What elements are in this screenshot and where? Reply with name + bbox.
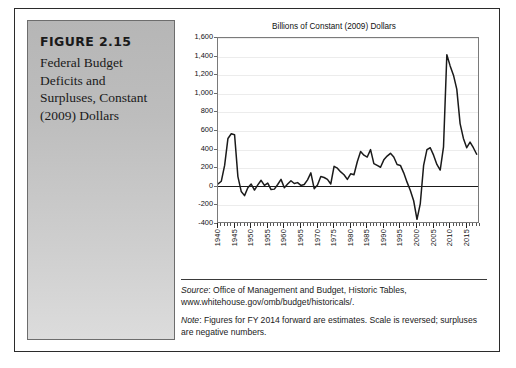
x-axis-major-tick bbox=[350, 223, 351, 228]
x-axis-minor-tick bbox=[443, 223, 444, 226]
x-axis-minor-tick bbox=[413, 223, 414, 226]
x-axis-minor-tick bbox=[376, 223, 377, 226]
y-axis-tick-label: 0 bbox=[153, 182, 213, 190]
x-axis-minor-tick bbox=[396, 223, 397, 226]
x-axis-minor-tick bbox=[453, 223, 454, 226]
x-axis-tick-label: 1945 bbox=[230, 229, 239, 246]
x-axis-minor-tick bbox=[254, 223, 255, 226]
x-axis-minor-tick bbox=[310, 223, 311, 226]
deficit-line-series bbox=[218, 38, 479, 223]
x-axis-tick-label: 1975 bbox=[329, 229, 338, 246]
x-axis-tick-label: 1995 bbox=[395, 229, 404, 246]
x-axis-major-tick bbox=[317, 223, 318, 228]
y-axis-tick-label: 1,200 bbox=[153, 70, 213, 78]
x-axis-minor-tick bbox=[224, 223, 225, 226]
y-axis-tick-mark bbox=[214, 93, 217, 94]
x-axis-tick-label: 1990 bbox=[379, 229, 388, 246]
x-axis-minor-tick bbox=[393, 223, 394, 226]
note-text: : Figures for FY 2014 forward are estima… bbox=[181, 315, 477, 337]
estimates-note: Note: Figures for FY 2014 forward are es… bbox=[181, 315, 487, 338]
x-axis-minor-tick bbox=[446, 223, 447, 226]
x-axis-minor-tick bbox=[326, 223, 327, 226]
x-axis-minor-tick bbox=[303, 223, 304, 226]
x-axis-minor-tick bbox=[426, 223, 427, 226]
x-axis-minor-tick bbox=[287, 223, 288, 226]
x-axis-major-tick bbox=[267, 223, 268, 228]
x-axis-tick-label: 1980 bbox=[346, 229, 355, 246]
x-axis-minor-tick bbox=[406, 223, 407, 226]
y-axis-tick-mark bbox=[214, 74, 217, 75]
x-axis-minor-tick bbox=[346, 223, 347, 226]
x-axis-minor-tick bbox=[230, 223, 231, 226]
note-label: Note bbox=[181, 315, 199, 325]
x-axis-minor-tick bbox=[237, 223, 238, 226]
y-axis-tick-mark bbox=[214, 111, 217, 112]
x-axis-minor-tick bbox=[297, 223, 298, 226]
x-axis-minor-tick bbox=[390, 223, 391, 226]
x-axis-minor-tick bbox=[469, 223, 470, 226]
y-axis-tick-mark bbox=[214, 37, 217, 38]
x-axis-ticks bbox=[217, 223, 479, 227]
figure-number: FIGURE 2.15 bbox=[40, 34, 164, 49]
x-axis-minor-tick bbox=[220, 223, 221, 226]
x-axis-tick-label: 2000 bbox=[412, 229, 421, 246]
x-axis-minor-tick bbox=[244, 223, 245, 226]
x-axis-minor-tick bbox=[403, 223, 404, 226]
x-axis-tick-label: 1970 bbox=[313, 229, 322, 246]
x-axis-tick-label: 2005 bbox=[429, 229, 438, 246]
x-axis-minor-tick bbox=[423, 223, 424, 226]
x-axis-major-tick bbox=[383, 223, 384, 228]
x-axis-minor-tick bbox=[429, 223, 430, 226]
source-note: Source: Office of Management and Budget,… bbox=[181, 285, 487, 308]
y-axis-tick-mark bbox=[214, 204, 217, 205]
x-axis-minor-tick bbox=[360, 223, 361, 226]
figure-caption-panel: FIGURE 2.15 Federal Budget Deficits and … bbox=[27, 20, 175, 340]
figure-card: FIGURE 2.15 Federal Budget Deficits and … bbox=[14, 8, 500, 352]
x-axis-tick-label: 2015 bbox=[462, 229, 471, 246]
x-axis-minor-tick bbox=[356, 223, 357, 226]
source-label: Source bbox=[181, 285, 208, 295]
x-axis-minor-tick bbox=[323, 223, 324, 226]
x-axis-minor-tick bbox=[353, 223, 354, 226]
y-axis-tick-mark bbox=[214, 56, 217, 57]
x-axis-major-tick bbox=[466, 223, 467, 228]
x-axis-major-tick bbox=[234, 223, 235, 228]
x-axis-minor-tick bbox=[343, 223, 344, 226]
x-axis-minor-tick bbox=[263, 223, 264, 226]
x-axis-minor-tick bbox=[479, 223, 480, 226]
x-axis-major-tick bbox=[433, 223, 434, 228]
source-url: www.whitehouse.gov/omb/budget/historical… bbox=[181, 297, 354, 307]
x-axis-minor-tick bbox=[227, 223, 228, 226]
x-axis-major-tick bbox=[250, 223, 251, 228]
y-axis-tick-mark bbox=[214, 149, 217, 150]
x-axis-tick-label: 2010 bbox=[445, 229, 454, 246]
x-axis-minor-tick bbox=[436, 223, 437, 226]
x-axis-minor-tick bbox=[280, 223, 281, 226]
plot-box bbox=[217, 37, 479, 223]
y-axis-tick-label: 1,600 bbox=[153, 33, 213, 41]
x-axis-tick-label: 1940 bbox=[213, 229, 222, 246]
y-axis-tick-label: -400 bbox=[153, 219, 213, 227]
x-axis-minor-tick bbox=[293, 223, 294, 226]
x-axis-minor-tick bbox=[472, 223, 473, 226]
chart-title: Billions of Constant (2009) Dollars bbox=[181, 22, 487, 31]
x-axis-minor-tick bbox=[307, 223, 308, 226]
x-axis-minor-tick bbox=[380, 223, 381, 226]
x-axis-major-tick bbox=[399, 223, 400, 228]
source-text: : Office of Management and Budget, Histo… bbox=[208, 285, 406, 295]
y-axis-tick-mark bbox=[214, 130, 217, 131]
notes-divider bbox=[181, 279, 487, 280]
figure-notes: Source: Office of Management and Budget,… bbox=[181, 285, 487, 345]
x-axis-minor-tick bbox=[456, 223, 457, 226]
x-axis-tick-label: 1985 bbox=[362, 229, 371, 246]
x-axis-minor-tick bbox=[386, 223, 387, 226]
y-axis-tick-label: 600 bbox=[153, 126, 213, 134]
x-axis-minor-tick bbox=[419, 223, 420, 226]
x-axis-minor-tick bbox=[363, 223, 364, 226]
x-axis-minor-tick bbox=[320, 223, 321, 226]
x-axis-minor-tick bbox=[273, 223, 274, 226]
y-axis-tick-label: 1,000 bbox=[153, 89, 213, 97]
plot-area: 1,6001,4001,2001,0008006004002000-200-40… bbox=[217, 37, 479, 223]
x-axis-major-tick bbox=[300, 223, 301, 228]
x-axis-minor-tick bbox=[462, 223, 463, 226]
